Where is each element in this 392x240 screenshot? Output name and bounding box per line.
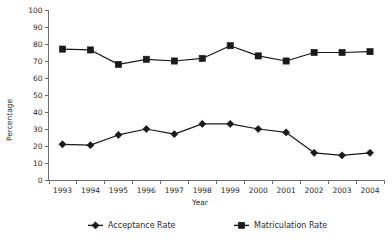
y-tick-label: 60 [33, 74, 43, 83]
x-axis-tick-labels: 1993199419951996199719981999200020012002… [49, 180, 385, 195]
chart-svg: Percentage 0102030405060708090100 199319… [0, 0, 392, 240]
legend-item-acceptance-rate[interactable]: Acceptance Rate [88, 221, 176, 230]
x-tick-label: 1994 [81, 186, 100, 195]
data-point-marker [87, 47, 93, 53]
x-tick-label: 1999 [221, 186, 240, 195]
data-point-marker [338, 152, 345, 159]
y-tick-label: 90 [33, 23, 43, 32]
x-tick-label: 1997 [165, 186, 184, 195]
data-point-marker [367, 49, 373, 55]
data-point-marker [339, 49, 345, 55]
y-tick-label: 80 [33, 40, 43, 49]
x-tick-label: 2004 [360, 186, 379, 195]
legend-label: Matriculation Rate [254, 221, 327, 230]
series-line [62, 124, 370, 155]
data-point-marker [283, 58, 289, 64]
data-point-marker [143, 56, 149, 62]
y-tick-label: 50 [33, 91, 43, 100]
x-tick-label: 1998 [193, 186, 212, 195]
legend-label: Acceptance Rate [108, 221, 176, 230]
data-point-marker [199, 55, 205, 61]
data-point-marker [255, 53, 261, 59]
data-point-marker [171, 131, 178, 138]
data-point-marker [87, 142, 94, 149]
y-tick-label: 100 [28, 6, 43, 15]
x-tick-label: 1995 [109, 186, 128, 195]
x-tick-label: 2003 [333, 186, 352, 195]
data-point-marker [115, 61, 121, 67]
data-point-marker [227, 120, 234, 127]
y-axis-title: Percentage [5, 99, 14, 142]
y-tick-label: 0 [38, 176, 43, 185]
line-chart: Percentage 0102030405060708090100 199319… [0, 0, 392, 240]
data-point-marker [115, 131, 122, 138]
data-point-marker [255, 125, 262, 132]
x-axis-title: Year [191, 198, 209, 207]
y-axis-tick-labels: 0102030405060708090100 [28, 6, 48, 185]
x-tick-label: 2000 [249, 186, 268, 195]
x-tick-label: 2002 [305, 186, 324, 195]
data-point-marker [92, 222, 99, 229]
series-layer [59, 43, 374, 159]
data-point-marker [366, 149, 373, 156]
data-point-marker [59, 46, 65, 52]
y-tick-label: 70 [33, 57, 43, 66]
data-point-marker [227, 43, 233, 49]
x-tick-label: 2001 [277, 186, 296, 195]
x-tick-label: 1993 [53, 186, 72, 195]
data-point-marker [238, 222, 244, 228]
data-point-marker [59, 141, 66, 148]
data-point-marker [311, 49, 317, 55]
legend-item-matriculation-rate[interactable]: Matriculation Rate [234, 221, 327, 230]
series-line [62, 46, 370, 65]
y-tick-label: 20 [33, 142, 43, 151]
chart-legend: Acceptance RateMatriculation Rate [88, 221, 327, 230]
data-point-marker [199, 120, 206, 127]
y-tick-label: 30 [33, 125, 43, 134]
data-point-marker [171, 58, 177, 64]
y-tick-label: 10 [33, 159, 43, 168]
series-matriculation-rate [59, 43, 373, 68]
data-point-marker [143, 125, 150, 132]
x-tick-label: 1996 [137, 186, 156, 195]
series-acceptance-rate [59, 120, 374, 159]
y-axis-title-group: Percentage [5, 99, 14, 142]
y-tick-label: 40 [33, 108, 43, 117]
